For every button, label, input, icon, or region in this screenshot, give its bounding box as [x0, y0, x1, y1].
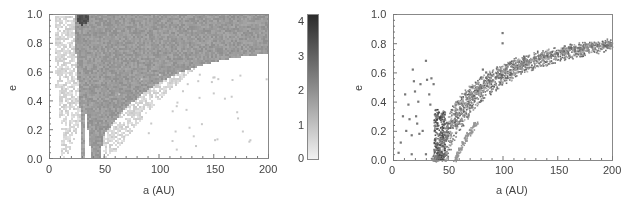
x-axis-label: a (AU) [143, 184, 175, 196]
y-tick: 0.8 [371, 38, 386, 50]
y-tick: 1.0 [371, 8, 386, 20]
x-tick: 100 [151, 163, 169, 175]
left-density-plot: 0.0 0.2 0.4 0.6 0.8 1.0 0 50 100 150 200… [0, 0, 330, 205]
y-axis-label: e [352, 85, 364, 91]
x-tick: 100 [495, 164, 513, 176]
colorbar-tick: 1 [298, 119, 304, 131]
y-tick: 0.6 [371, 67, 386, 79]
x-tick: 200 [603, 164, 621, 176]
colorbar-tick: 3 [298, 50, 304, 62]
y-tick: 0.2 [371, 125, 386, 137]
colorbar-tick: 4 [298, 15, 304, 27]
y-tick: 0.2 [27, 124, 42, 136]
x-tick: 200 [259, 163, 277, 175]
y-tick: 0.0 [27, 153, 42, 165]
x-axis-label: a (AU) [496, 184, 528, 196]
x-tick: 50 [443, 164, 455, 176]
colorbar-tick: 0 [298, 152, 304, 164]
y-tick: 1.0 [27, 8, 42, 20]
x-tick: 0 [46, 163, 52, 175]
y-tick: 0.8 [27, 37, 42, 49]
y-tick: 0.6 [27, 66, 42, 78]
x-tick: 0 [389, 164, 395, 176]
y-tick: 0.4 [371, 96, 386, 108]
y-tick: 0.0 [371, 154, 386, 166]
y-axis-label: e [6, 85, 18, 91]
right-scatter-plot: 0.0 0.2 0.4 0.6 0.8 1.0 0 50 100 150 200… [330, 0, 631, 205]
x-tick: 150 [550, 164, 568, 176]
x-tick: 150 [206, 163, 224, 175]
y-tick: 0.4 [27, 95, 42, 107]
x-tick: 50 [99, 163, 111, 175]
colorbar-tick: 2 [298, 84, 304, 96]
